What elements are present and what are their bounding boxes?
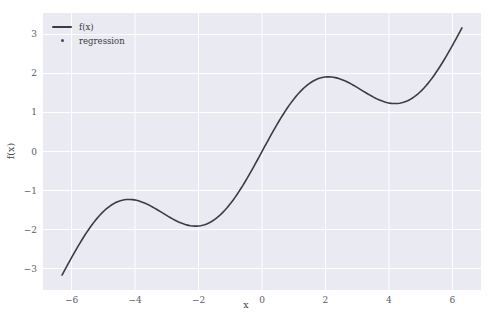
y-axis-label: f(x) — [5, 143, 16, 159]
y-tick-label: 1 — [0, 107, 37, 117]
figure-canvas: −3−2−10123 −6−4−20246 x f(x) f(x)regress… — [0, 0, 492, 322]
legend-item-label: regression — [79, 36, 125, 46]
legend-item[interactable]: regression — [51, 35, 125, 46]
data-series-layer — [43, 13, 481, 290]
legend-key-line — [51, 26, 73, 28]
series-line-fx — [62, 28, 462, 275]
y-tick-label: 2 — [0, 68, 37, 78]
legend-key-dot — [51, 39, 73, 42]
x-axis-label: x — [0, 299, 492, 310]
plot-axes — [43, 13, 481, 290]
legend-item[interactable]: f(x) — [51, 21, 125, 32]
y-tick-label: −2 — [0, 225, 37, 235]
line-swatch-icon — [52, 26, 72, 28]
y-tick-label: 3 — [0, 29, 37, 39]
figure-caption — [6, 313, 476, 322]
dot-swatch-icon — [61, 39, 64, 42]
y-tick-label: −1 — [0, 186, 37, 196]
y-tick-label: −3 — [0, 264, 37, 274]
legend-item-label: f(x) — [79, 22, 94, 32]
chart-legend: f(x)regression — [47, 18, 131, 49]
